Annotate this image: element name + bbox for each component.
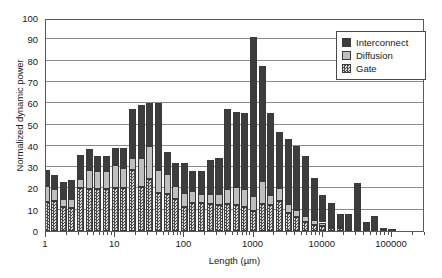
bar-segment-interconnect [86,149,93,170]
bar-stack [103,156,110,231]
bar-segment-interconnect [388,229,395,231]
bar-stack [181,163,188,231]
bar-segment-gate [259,204,266,231]
bar-segment-diffusion [51,189,58,201]
bar-segment-diffusion [198,194,205,204]
bar-segment-interconnect [319,195,326,223]
legend-item-gate: Gate [342,62,420,75]
bar-segment-interconnect [146,103,153,146]
bar-segment-interconnect [112,148,119,165]
x-tick-minor [355,232,356,235]
bar-segment-interconnect [103,156,110,171]
bar-segment-interconnect [68,180,75,199]
y-tick-label: 10 [12,206,38,216]
x-tick-minor [384,232,385,235]
y-axis-title: Normalized dynamic power [14,21,25,211]
bar-stack [250,37,257,231]
bar-segment-interconnect [250,37,257,196]
bar-segment-gate [68,208,75,231]
bar-segment-gate [86,189,93,231]
x-tick-label: 1 [42,239,47,249]
bar-segment-gate [285,213,292,231]
legend-item-diffusion: Diffusion [342,49,420,62]
bar-stack [354,183,361,231]
bar-segment-diffusion [207,194,214,205]
bar-segment-diffusion [112,165,119,188]
y-tick-label: 0 [12,227,38,237]
legend-label-diffusion: Diffusion [356,51,393,61]
bar-stack [328,203,335,231]
x-tick-minor [147,232,148,235]
bar-segment-interconnect [129,109,136,158]
x-tick-minor [306,232,307,235]
bar-stack [293,146,300,231]
legend-swatch-diffusion [342,51,351,60]
bar-segment-diffusion [181,193,188,207]
x-tick-major [253,232,254,237]
bar-stack [302,156,309,231]
bar-segment-diffusion [164,174,171,194]
bar-segment-gate [112,188,119,231]
x-tick-minor [180,232,181,235]
x-tick-minor [237,232,238,235]
legend-label-gate: Gate [356,64,377,74]
bar-segment-interconnect [198,171,205,193]
bar-segment-gate [233,205,240,231]
y-tick-label: 40 [12,142,38,152]
x-tick-minor [246,232,247,235]
bar-segment-interconnect [311,178,318,221]
x-tick-minor [232,232,233,235]
bar-segment-diffusion [285,204,292,213]
x-tick-label: 100000 [375,239,407,249]
y-tick-label: 70 [12,78,38,88]
y-tick-label: 50 [12,121,38,131]
legend-swatch-gate [342,64,351,73]
x-tick-minor [311,232,312,235]
x-tick-minor [168,232,169,235]
bar-segment-gate [198,203,205,231]
bar-segment-gate [302,222,309,231]
x-tick-minor [204,232,205,235]
bar-stack [345,214,352,231]
bar-stack [112,148,119,231]
bar-segment-interconnect [138,105,145,157]
bar-segment-diffusion [259,181,266,204]
x-tick-minor [242,232,243,235]
bar-stack [146,103,153,231]
bar-stack [285,139,292,231]
bar-segment-gate [51,201,58,231]
x-tick-label: 10 [109,239,120,249]
bar-segment-gate [241,207,248,231]
y-tick-label: 80 [12,57,38,67]
x-tick-major [45,232,46,237]
bar-stack [371,216,378,231]
bar-segment-diffusion [146,146,153,179]
x-tick-minor [343,232,344,235]
bar-stack [276,132,283,231]
bar-stack [77,155,84,231]
bar-segment-diffusion [215,194,222,206]
bar-stack [172,163,179,231]
bar-segment-interconnect [181,163,188,193]
bar-stack [45,170,50,231]
bar-stack [241,113,248,231]
bar-stack [319,195,326,231]
bar-segment-diffusion [45,186,50,202]
y-tick-label: 90 [12,35,38,45]
x-tick-major [391,232,392,237]
bar-segment-interconnect [164,152,171,173]
bar-stack [51,175,58,231]
x-tick-minor [66,232,67,235]
y-tick-label: 30 [12,163,38,173]
bar-segment-diffusion [129,158,136,171]
bar-segment-interconnect [189,171,196,190]
bar-segment-interconnect [215,158,222,194]
y-tick-label: 20 [12,184,38,194]
x-tick-major [322,232,323,237]
x-tick-minor [163,232,164,235]
bar-segment-gate [138,187,145,231]
bar-segment-gate [293,217,300,231]
bar-segment-gate [155,193,162,231]
bar-segment-gate [354,229,361,231]
x-tick-label: 10000 [309,239,335,249]
